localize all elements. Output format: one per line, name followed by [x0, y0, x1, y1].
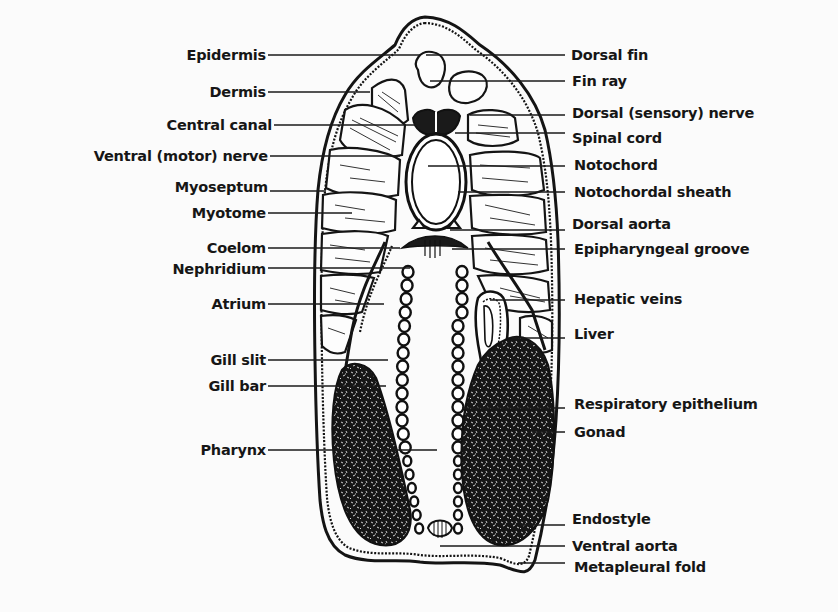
gill-bar-mark	[408, 483, 416, 493]
label-endostyle: Endostyle	[572, 510, 651, 528]
gill-bar-mark	[397, 415, 408, 427]
gill-bar-mark	[400, 307, 411, 319]
gill-bar-mark	[453, 347, 464, 359]
gill-bar-mark	[415, 524, 423, 534]
gill-bar-mark	[403, 456, 411, 466]
gill-bar-mark	[402, 280, 413, 292]
gill-bar-mark	[397, 388, 408, 400]
label-gill-bar: Gill bar	[208, 377, 266, 395]
endostyle-shape	[428, 521, 452, 539]
gill-bar-mark	[397, 374, 408, 386]
label-metapleural-fold: Metapleural fold	[574, 558, 706, 576]
label-hepatic-veins: Hepatic veins	[574, 290, 682, 308]
gill-bar-mark	[453, 374, 464, 386]
gonad-right	[462, 337, 554, 545]
gill-bar-mark	[398, 347, 409, 359]
gill-bar-mark	[400, 442, 411, 454]
label-fin-ray: Fin ray	[572, 72, 627, 90]
gill-bar-mark	[399, 320, 410, 332]
gill-bar-mark	[457, 266, 468, 278]
label-coelom: Coelom	[207, 239, 266, 257]
gill-bar-mark	[457, 307, 468, 319]
notochord-shape	[406, 134, 466, 230]
label-dorsal-sensory-nerve: Dorsal (sensory) nerve	[572, 104, 754, 122]
gill-bar-mark	[457, 293, 468, 305]
gill-bar-mark	[401, 293, 412, 305]
gill-bar-mark	[453, 415, 464, 427]
label-epidermis: Epidermis	[186, 46, 266, 64]
gill-bar-mark	[398, 428, 409, 440]
gill-bar-mark	[453, 401, 464, 413]
amphioxus-cross-section	[0, 0, 838, 612]
label-myoseptum: Myoseptum	[175, 178, 268, 196]
gill-bar-mark	[453, 334, 464, 346]
label-ventral-aorta: Ventral aorta	[572, 537, 678, 555]
gill-bar-mark	[457, 280, 468, 292]
gill-bar-mark	[453, 388, 464, 400]
label-pharynx: Pharynx	[200, 441, 266, 459]
label-dorsal-fin: Dorsal fin	[571, 46, 648, 64]
gill-bar-mark	[398, 334, 409, 346]
label-gill-slit: Gill slit	[210, 351, 266, 369]
gill-bar-mark	[454, 483, 462, 493]
spinal-cord-shape	[413, 110, 460, 135]
label-central-canal: Central canal	[166, 116, 272, 134]
gill-bar-mark	[410, 497, 418, 507]
fin-rays	[416, 52, 487, 103]
gill-bar-mark	[454, 510, 462, 520]
gill-bar-mark	[413, 510, 421, 520]
gill-bar-mark	[405, 470, 413, 480]
label-dermis: Dermis	[209, 83, 266, 101]
label-dorsal-aorta: Dorsal aorta	[572, 215, 671, 233]
label-myotome: Myotome	[192, 204, 266, 222]
gill-bar-mark	[454, 497, 462, 507]
gill-bar-mark	[454, 524, 462, 534]
gill-bar-mark	[454, 470, 462, 480]
label-epipharyngeal-groove: Epipharyngeal groove	[574, 240, 749, 258]
label-liver: Liver	[574, 325, 614, 343]
gill-bar-mark	[453, 320, 464, 332]
label-notochord: Notochord	[574, 156, 658, 174]
label-notochordal-sheath: Notochordal sheath	[574, 183, 731, 201]
label-gonad: Gonad	[574, 423, 625, 441]
gill-bar-mark	[397, 401, 408, 413]
label-ventral-motor-nerve: Ventral (motor) nerve	[94, 147, 268, 165]
label-respiratory-epithelium: Respiratory epithelium	[574, 395, 758, 413]
gill-bar-mark	[397, 361, 408, 373]
label-atrium: Atrium	[211, 295, 266, 313]
gill-bar-mark	[453, 361, 464, 373]
label-spinal-cord: Spinal cord	[572, 129, 662, 147]
label-nephridium: Nephridium	[172, 260, 266, 278]
